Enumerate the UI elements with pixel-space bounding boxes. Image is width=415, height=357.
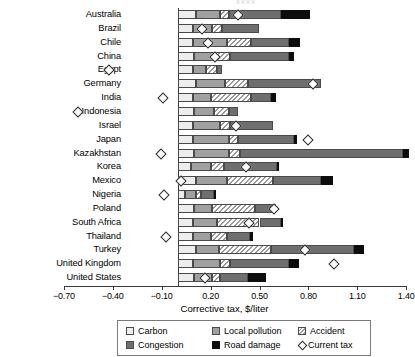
bar-row: [0, 10, 415, 19]
bar-segment-carbon: [178, 38, 193, 47]
current-tax-marker: [160, 231, 171, 242]
bar-segment-accident: [220, 121, 230, 130]
bar-segment-local-pollution: [193, 93, 211, 102]
x-tick-label: −0.70: [44, 291, 84, 301]
bar-segment-road-damage: [289, 259, 299, 268]
bar-segment-local-pollution: [185, 190, 196, 199]
bar-segment-local-pollution: [196, 10, 220, 19]
bar-segment-local-pollution: [196, 176, 227, 185]
legend-item-label: Road damage: [224, 340, 281, 350]
legend-item-label: Current tax: [308, 340, 353, 350]
bar-row: [0, 93, 415, 102]
bar-row: [0, 38, 415, 47]
bar-segment-accident: [206, 65, 217, 74]
bar-segment-road-damage: [281, 218, 283, 227]
bar-segment-congestion: [222, 24, 259, 33]
bar-segment-local-pollution: [193, 259, 221, 268]
x-tick-label: 1.10: [337, 291, 377, 301]
bar-segment-congestion: [230, 52, 289, 61]
bar-segment-local-pollution: [193, 65, 206, 74]
legend-item-label: Congestion: [138, 340, 184, 350]
legend-column-1: CarbonCongestion: [126, 324, 210, 352]
bar-segment-carbon: [178, 218, 193, 227]
bar-segment-road-damage: [281, 10, 310, 19]
legend-item-carbon[interactable]: Carbon: [126, 324, 210, 338]
bar-segment-accident: [212, 204, 254, 213]
bar-segment-local-pollution: [193, 232, 211, 241]
bar-segment-accident: [229, 149, 240, 158]
bar-row: [0, 245, 415, 254]
bar-segment-road-damage: [271, 93, 276, 102]
bar-segment-road-damage: [250, 232, 253, 241]
bar-segment-carbon: [178, 273, 194, 282]
bar-segment-road-damage: [289, 52, 294, 61]
bar-segment-congestion: [238, 135, 293, 144]
plot-area: AustraliaBrazilChileChinaEgyptGermanyInd…: [0, 0, 415, 290]
bar-segment-local-pollution: [193, 121, 221, 130]
bar-segment-carbon: [178, 10, 196, 19]
bar-segment-congestion: [227, 232, 250, 241]
bar-segment-accident: [220, 10, 228, 19]
current-tax-diamond: [298, 342, 305, 349]
road-damage-swatch: [212, 341, 220, 349]
bar-segment-carbon: [178, 121, 193, 130]
bar-segment-accident: [229, 135, 239, 144]
bar-segment-carbon: [178, 135, 193, 144]
legend-item-current-tax[interactable]: Current tax: [298, 338, 368, 352]
current-tax-marker: [328, 259, 339, 270]
x-tick-mark: [260, 286, 261, 290]
legend-column-3: AccidentCurrent tax: [298, 324, 368, 352]
bar-segment-congestion: [220, 273, 248, 282]
bar-segment-congestion: [260, 218, 281, 227]
bar-segment-road-damage: [248, 273, 266, 282]
bar-segment-carbon: [178, 79, 196, 88]
congestion-swatch: [126, 341, 134, 349]
bar-segment-congestion: [273, 176, 322, 185]
bar-segment-congestion: [251, 93, 271, 102]
bar-segment-accident: [227, 38, 251, 47]
bar-row: [0, 79, 415, 88]
bar-segment-accident: [227, 176, 273, 185]
bar-segment-carbon: [178, 107, 194, 116]
bar-segment-carbon: [178, 245, 196, 254]
bar-row: [0, 135, 415, 144]
x-tick-label: 1.40: [386, 291, 415, 301]
legend-column-2: Local pollutionRoad damage: [212, 324, 304, 352]
bar-segment-accident: [219, 245, 271, 254]
legend-item-road-damage[interactable]: Road damage: [212, 338, 304, 352]
x-axis-title-text: Corrective tax, $/liter: [181, 303, 269, 314]
bar-row: [0, 149, 415, 158]
bar-row: [0, 24, 415, 33]
bar-segment-congestion: [251, 38, 288, 47]
bar-segment-carbon: [178, 204, 194, 213]
x-tick-label: −0.10: [142, 291, 182, 301]
x-tick-mark: [113, 286, 114, 290]
current-tax-marker: [157, 92, 168, 103]
current-tax-marker: [155, 148, 166, 159]
bar-row: [0, 107, 415, 116]
bar-row: [0, 190, 415, 199]
bar-segment-local-pollution: [191, 162, 211, 171]
bar-segment-road-damage: [354, 245, 364, 254]
x-axis-title: Corrective tax, $/liter: [0, 303, 415, 314]
legend-item-accident[interactable]: Accident: [298, 324, 368, 338]
bar-row: [0, 52, 415, 61]
bar-segment-carbon: [178, 52, 194, 61]
legend-item-congestion[interactable]: Congestion: [126, 338, 210, 352]
bar-segment-congestion: [201, 190, 214, 199]
bar-segment-accident: [212, 24, 222, 33]
bar-segment-local-pollution: [196, 79, 225, 88]
x-tick-label: 0.20: [191, 291, 231, 301]
x-tick-mark: [406, 286, 407, 290]
bar-segment-congestion: [229, 107, 239, 116]
bar-segment-congestion: [271, 245, 354, 254]
current-tax-marker: [159, 189, 170, 200]
bar-segment-congestion: [230, 259, 289, 268]
chart-legend: CarbonCongestion Local pollutionRoad dam…: [117, 320, 371, 356]
legend-item-local-pollution[interactable]: Local pollution: [212, 324, 304, 338]
x-tick-mark: [211, 286, 212, 290]
bar-row: [0, 232, 415, 241]
bar-segment-accident: [212, 273, 220, 282]
bar-segment-carbon: [178, 93, 193, 102]
x-tick-label: −0.40: [93, 291, 133, 301]
